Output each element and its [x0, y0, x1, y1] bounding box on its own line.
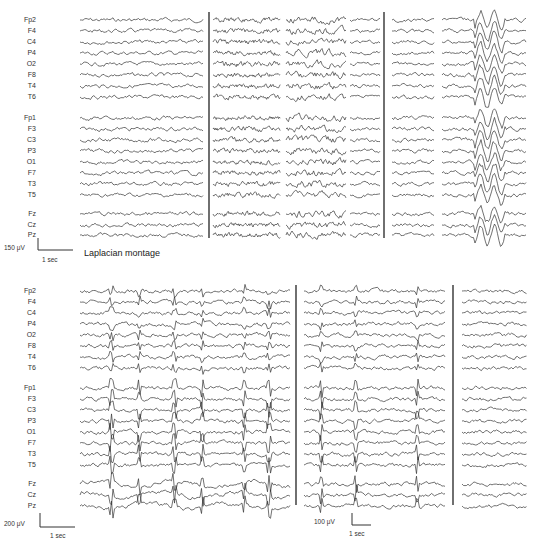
bottom-trace [304, 320, 445, 330]
top-trace [80, 223, 203, 228]
top-trace [213, 73, 280, 78]
top-trace [286, 180, 346, 188]
bottom-trace [80, 351, 290, 363]
bottom-trace [304, 296, 445, 308]
top-trace [213, 17, 280, 23]
bottom-trace [462, 419, 527, 423]
top-trace [350, 223, 380, 227]
top-trace [350, 95, 380, 97]
bottom-trace [462, 311, 527, 314]
top-trace [350, 212, 380, 215]
top-trace [350, 62, 380, 65]
top-trace [286, 60, 346, 69]
top-trace [442, 173, 526, 195]
bottom-trace [80, 379, 290, 398]
bottom-trace [462, 441, 527, 445]
bottom-trace [462, 355, 527, 359]
top-trace [442, 89, 526, 108]
top-trace [213, 28, 280, 33]
top-trace [286, 157, 346, 165]
bottom-trace [80, 330, 290, 341]
top-trace [286, 211, 346, 219]
top-trace [286, 190, 346, 198]
bottom-trace [80, 340, 290, 350]
bottom-trace [304, 401, 445, 420]
top-trace [350, 128, 380, 131]
top-trace [286, 148, 346, 155]
bottom-scale-time-2: 1 sec [349, 530, 365, 537]
top-trace [442, 65, 526, 87]
top-trace [286, 38, 346, 45]
top-trace [80, 73, 203, 78]
bottom-trace [80, 473, 290, 495]
top-trace [392, 194, 434, 197]
top-trace [350, 18, 380, 21]
top-trace [286, 135, 346, 142]
bottom-scale-bar-2 [352, 513, 371, 525]
top-trace [213, 137, 280, 143]
top-trace [213, 148, 280, 153]
bottom-trace [462, 503, 527, 508]
bottom-scale-amplitude-1: 200 μV [4, 520, 25, 527]
bottom-trace [462, 463, 527, 468]
top-trace [286, 221, 346, 229]
top-trace [442, 131, 526, 149]
top-trace [442, 164, 526, 182]
bottom-trace [304, 485, 445, 504]
top-trace [392, 18, 434, 22]
top-trace [350, 233, 380, 237]
bottom-trace [80, 284, 290, 297]
bottom-trace [304, 425, 445, 441]
top-trace [392, 160, 434, 164]
top-trace [213, 232, 280, 238]
bottom-trace [462, 397, 527, 401]
top-trace [80, 193, 203, 197]
bottom-trace [304, 411, 445, 430]
top-trace [213, 116, 280, 121]
bottom-trace [80, 444, 290, 462]
bottom-trace [462, 344, 527, 349]
top-trace [213, 170, 280, 175]
bottom-trace [462, 322, 527, 326]
bottom-trace [462, 386, 527, 390]
top-trace [442, 10, 526, 30]
top-trace [286, 125, 346, 133]
bottom-trace [304, 391, 445, 408]
top-trace [80, 138, 203, 143]
top-trace [442, 109, 526, 129]
top-trace [213, 84, 280, 89]
top-trace [80, 181, 203, 186]
bottom-trace [304, 435, 445, 452]
bottom-trace [304, 331, 445, 341]
top-trace [350, 74, 380, 77]
top-trace [80, 39, 203, 44]
top-trace [213, 211, 280, 216]
top-trace [350, 40, 380, 44]
bottom-trace [304, 379, 445, 398]
top-trace [80, 95, 203, 100]
top-trace [442, 31, 526, 53]
top-trace [80, 211, 203, 216]
top-trace [392, 51, 434, 55]
top-trace [213, 39, 280, 44]
bottom-trace [304, 498, 445, 512]
top-trace [80, 148, 203, 153]
bottom-trace [462, 452, 527, 456]
top-trace [286, 82, 346, 89]
montage-label: Laplacian montage [84, 248, 160, 258]
top-trace [350, 84, 380, 87]
top-trace [442, 41, 526, 63]
bottom-trace [462, 407, 527, 412]
top-trace [350, 181, 380, 186]
bottom-trace [304, 476, 445, 493]
bottom-trace [462, 482, 527, 486]
bottom-trace [304, 308, 445, 317]
top-trace [286, 17, 346, 25]
top-trace [392, 83, 434, 87]
top-trace [392, 171, 434, 175]
top-trace [442, 140, 526, 162]
bottom-trace [80, 390, 290, 410]
bottom-trace [304, 445, 445, 462]
bottom-trace [304, 285, 445, 295]
top-trace [442, 22, 526, 42]
